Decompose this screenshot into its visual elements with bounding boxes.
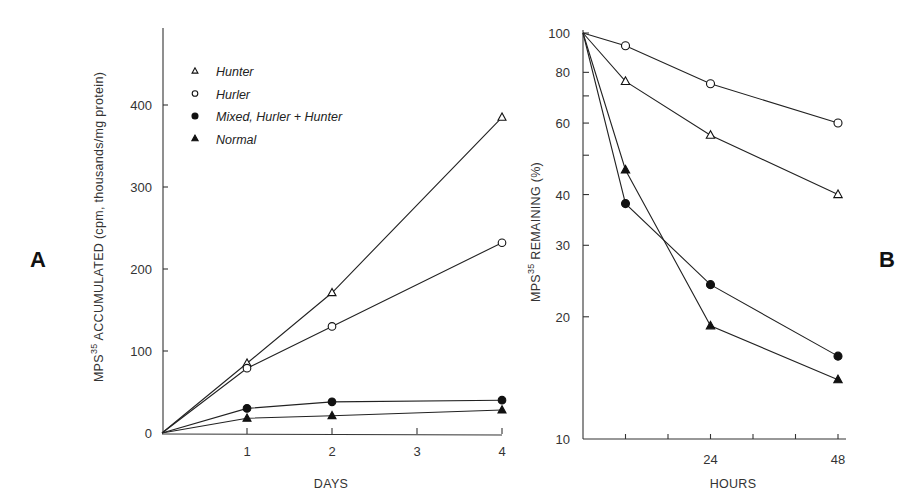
data-point-filled-circle [328, 398, 336, 406]
legend-item: Normal [192, 133, 258, 147]
data-point-filled-triangle [706, 321, 714, 329]
series-hunter [162, 113, 506, 433]
data-point-filled-circle [622, 200, 630, 208]
panel-label-a: A [30, 247, 46, 272]
y-tick-label: 300 [130, 180, 152, 195]
series-hurler [583, 33, 842, 127]
series-normal [162, 406, 506, 433]
data-point-open-circle [328, 323, 336, 331]
data-point-filled-circle [192, 113, 198, 119]
data-point-open-circle [498, 239, 506, 247]
chart-b-series [583, 33, 842, 383]
x-tick-label: 48 [831, 452, 845, 467]
chart-b-y-axis-title: MPS35 REMAINING (%) [526, 162, 543, 302]
y-tick-label: 20 [556, 310, 570, 325]
data-point-filled-triangle [243, 414, 251, 421]
data-point-open-circle [192, 91, 198, 97]
chart-b-remaining: 1020304060801002448 HOURS MPS35 REMAININ… [526, 26, 895, 491]
data-point-open-triangle [498, 113, 506, 120]
y-tick-label: 10 [556, 432, 570, 447]
chart-a-accumulation: 01002003004001234 HunterHurlerMixed, Hur… [30, 28, 506, 491]
y-tick-label: 0 [145, 426, 152, 441]
y-tick-label: 80 [556, 65, 570, 80]
y-tick-label: 40 [556, 188, 570, 203]
legend-label: Hunter [216, 65, 254, 79]
x-axis-line [162, 434, 502, 435]
chart-a-axes: 01002003004001234 [130, 28, 505, 459]
x-tick-label: 24 [703, 452, 717, 467]
data-point-filled-circle [243, 405, 251, 413]
series-line [583, 33, 838, 195]
data-point-open-triangle [834, 190, 842, 198]
data-point-open-circle [834, 119, 842, 127]
x-tick-label: 2 [328, 444, 335, 459]
x-tick-label: 4 [498, 444, 505, 459]
y-tick-label: 30 [556, 238, 570, 253]
data-point-filled-triangle [621, 165, 629, 173]
data-point-filled-triangle [498, 406, 506, 413]
legend-label: Mixed, Hurler + Hunter [216, 110, 343, 124]
data-point-open-circle [622, 42, 630, 50]
legend-item: Mixed, Hurler + Hunter [192, 110, 343, 124]
x-tick-label: 1 [243, 444, 250, 459]
legend-label: Hurler [216, 88, 251, 102]
figure: 01002003004001234 HunterHurlerMixed, Hur… [0, 0, 924, 504]
legend: HunterHurlerMixed, Hurler + HunterNormal [192, 65, 343, 147]
chart-b-x-axis-title: HOURS [710, 477, 757, 491]
y-tick-label: 100 [130, 344, 152, 359]
data-point-open-circle [707, 80, 715, 88]
y-tick-label: 60 [556, 116, 570, 131]
legend-item: Hurler [192, 88, 251, 102]
chart-a-x-axis-title: DAYS [314, 477, 348, 491]
data-point-open-circle [243, 364, 251, 372]
data-point-filled-circle [834, 352, 842, 360]
series-line [162, 117, 502, 433]
data-point-filled-circle [498, 396, 506, 404]
chart-a-y-axis-title: MPS35 ACCUMULATED (cpm, thousands/mg pro… [89, 72, 106, 382]
data-point-filled-circle [707, 281, 715, 289]
legend-item: Hunter [192, 65, 254, 79]
y-tick-label: 100 [548, 26, 570, 41]
legend-label: Normal [216, 133, 258, 147]
chart-b-axes: 1020304060801002448 [548, 26, 846, 467]
data-point-filled-triangle [192, 135, 198, 141]
data-point-open-triangle [706, 131, 714, 139]
x-tick-label: 3 [413, 444, 420, 459]
data-point-filled-triangle [328, 411, 336, 418]
data-point-open-triangle [192, 68, 198, 73]
y-tick-label: 400 [130, 98, 152, 113]
panel-label-b: B [879, 247, 895, 272]
y-tick-label: 200 [130, 262, 152, 277]
chart-a-series [162, 113, 506, 433]
